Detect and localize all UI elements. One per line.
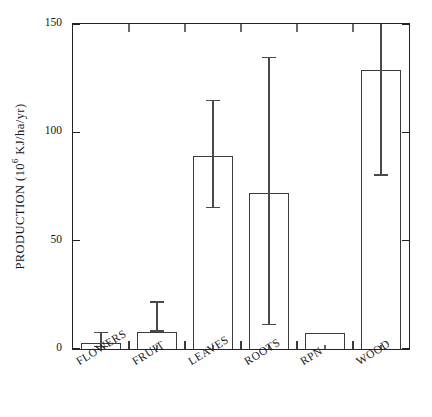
y-axis-tick-0	[73, 348, 80, 349]
y-axis-tick-label-0: 0	[28, 341, 62, 353]
y-axis-tick-label-100: 100	[28, 124, 62, 136]
y-axis-title: PRODUCTION (106 KJ/ha/yr)	[0, 0, 40, 372]
y-axis-tick-right-0	[402, 348, 409, 349]
error-bar-cap-lower-roots	[262, 324, 276, 325]
error-bar-cap-upper-leaves	[206, 100, 220, 101]
error-bar-line-fruit	[156, 301, 157, 331]
x-axis-tick-top-2	[184, 24, 185, 32]
x-axis-tick-4	[296, 341, 297, 349]
x-axis-tick-top-4	[296, 24, 297, 32]
y-axis-tick-right-100	[402, 132, 409, 133]
y-axis-title-prefix: PRODUCTION (10	[13, 162, 27, 269]
error-bar-cap-upper-fruit	[150, 301, 164, 302]
error-bar-cap-upper-roots	[262, 57, 276, 58]
bar-rpn	[305, 333, 345, 349]
x-axis-tick-5	[352, 341, 353, 349]
x-axis-tick-top-1	[128, 24, 129, 32]
y-axis-tick-right-150	[402, 23, 409, 24]
error-bar-cap-lower-wood	[374, 174, 388, 175]
error-bar-line-wood	[380, 24, 381, 176]
x-axis-tick-2	[184, 341, 185, 349]
y-axis-tick-150	[73, 23, 80, 24]
error-bar-cap-upper-flowers	[94, 332, 108, 333]
error-bar-line-roots	[268, 57, 269, 326]
x-axis-tick-1	[128, 341, 129, 349]
plot-area	[72, 23, 410, 350]
error-bar-cap-lower-leaves	[206, 207, 220, 208]
y-axis-tick-label-150: 150	[28, 16, 62, 28]
y-axis-title-suffix: KJ/ha/yr)	[13, 103, 27, 158]
y-axis-tick-right-50	[402, 240, 409, 241]
y-axis-tick-label-50: 50	[28, 233, 62, 245]
y-axis-tick-50	[73, 240, 80, 241]
error-bar-cap-lower-fruit	[150, 330, 164, 331]
figure: PRODUCTION (106 KJ/ha/yr) 050100150 FLOW…	[0, 0, 432, 417]
y-axis-tick-100	[73, 132, 80, 133]
x-axis-tick-top-3	[240, 24, 241, 32]
x-axis-tick-3	[240, 341, 241, 349]
error-bar-line-leaves	[212, 100, 213, 208]
x-axis-tick-top-5	[352, 24, 353, 32]
